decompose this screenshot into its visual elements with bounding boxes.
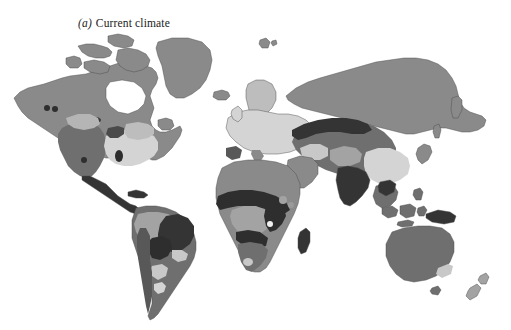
sulawesi [417,206,427,216]
region-africa [216,160,310,272]
spot-eastern-us [115,150,123,162]
zone-western-us [58,122,106,178]
japan [416,144,432,164]
iceland [213,90,230,100]
spot-alaska-b [52,106,58,112]
banks-island [66,56,82,68]
spot-kalahari [243,258,253,266]
spot-lake-victoria [267,221,273,227]
india [336,166,370,206]
ellesmere-island [108,34,134,48]
greenland [156,38,212,98]
zone-china [364,148,410,184]
spot-ethiopia-mid [279,196,287,204]
caribbean-islands [128,190,148,198]
borneo [400,204,416,218]
victoria-island [84,60,110,74]
zone-andes [137,228,152,314]
svalbard [259,38,270,48]
region-asia [286,58,486,208]
madagascar [298,228,310,254]
new-guinea [426,210,456,224]
newfoundland [158,118,174,130]
new-zealand-north [478,273,489,284]
region-latin-america [82,176,196,320]
new-zealand-south [466,284,481,300]
sakhalin [433,124,441,138]
region-australasia [382,188,489,300]
climate-figure: (a)Current climate [0,0,511,330]
tasmania [430,286,441,295]
spot-west-us [81,157,87,163]
java [397,220,414,227]
spot-alaska-a [44,105,50,111]
svalbard-islet [271,40,277,46]
spot-horn [288,202,294,208]
sumatra [382,206,398,218]
region-north-america [14,34,230,178]
world-map [0,0,511,330]
zone-iberia [226,146,242,160]
philippines [413,188,423,200]
arctic-islands [78,44,112,58]
